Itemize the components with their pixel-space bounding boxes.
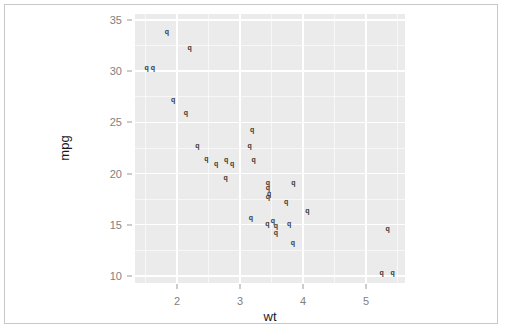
x-tick-label: 4 [300,295,306,307]
x-tick-mark [240,284,241,289]
data-point: q [274,228,278,235]
y-tick-mark [127,173,132,174]
y-tick-mark [127,122,132,123]
gridline-major-vertical [302,14,304,283]
data-point: q [247,141,251,148]
x-axis-title: wt [135,309,405,324]
data-point: q [266,178,270,185]
data-point: q [305,207,309,214]
data-point: q [230,160,234,167]
data-point: q [251,156,255,163]
gridline-minor-vertical [271,14,272,283]
data-point: q [265,219,269,226]
gridline-major-vertical [365,14,367,283]
y-tick-label: 10 [110,270,122,282]
data-point: q [223,173,227,180]
data-point: q [171,95,175,102]
gridline-minor-vertical [334,14,335,283]
gridline-major-vertical [239,14,241,283]
plot-panel: qqqqqqqqqqqqqqqqqqqqqqqqqqqqqqqq [135,14,405,283]
data-point: q [291,239,295,246]
data-point: q [214,160,218,167]
data-point: q [266,193,270,200]
data-point: q [391,268,395,275]
data-point: q [291,178,295,185]
gridline-minor-vertical [397,14,398,283]
x-tick-mark [365,284,366,289]
data-point: q [274,221,278,228]
data-point: q [284,198,288,205]
y-tick-mark [127,275,132,276]
x-tick-label: 2 [174,295,180,307]
y-tick-mark [127,20,132,21]
y-tick-label: 30 [110,65,122,77]
data-point: q [195,141,199,148]
data-point: q [380,268,384,275]
data-point: q [165,28,169,35]
scatter-plot-figure: qqqqqqqqqqqqqqqqqqqqqqqqqqqqqqqq 1015202… [0,0,506,331]
y-tick-label: 15 [110,219,122,231]
y-tick-mark [127,71,132,72]
gridline-minor-vertical [145,14,146,283]
x-tick-mark [303,284,304,289]
data-point: q [224,156,228,163]
gridline-minor-vertical [208,14,209,283]
data-point: q [184,109,188,116]
data-point: q [151,64,155,71]
data-point: q [250,125,254,132]
y-tick-label: 25 [110,116,122,128]
x-tick-label: 5 [363,295,369,307]
data-point: q [249,213,253,220]
y-axis-tick-labels: 101520253035 [95,0,122,331]
y-tick-label: 20 [110,168,122,180]
gridline-major-vertical [176,14,178,283]
y-tick-label: 35 [110,14,122,26]
x-tick-label: 3 [237,295,243,307]
y-tick-mark [127,224,132,225]
x-tick-mark [177,284,178,289]
data-point: q [287,219,291,226]
data-point: q [144,64,148,71]
y-axis-title: mpg [57,135,72,160]
data-point: q [204,155,208,162]
data-point: q [188,43,192,50]
data-point: q [386,224,390,231]
